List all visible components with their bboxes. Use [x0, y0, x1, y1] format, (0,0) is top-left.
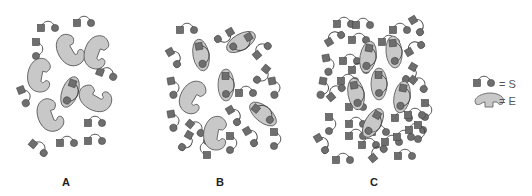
panel-c — [313, 14, 432, 164]
legend-substrate-label: = S — [499, 78, 516, 90]
legend-enzyme-label: = E — [499, 95, 516, 107]
panel-a — [16, 16, 118, 158]
panel-label-a: A — [62, 176, 70, 188]
legend-substrate-icon — [474, 76, 495, 86]
enzyme-substrate-diagram — [0, 0, 532, 196]
panel-label-b: B — [216, 176, 224, 188]
panel-label-c: C — [370, 176, 378, 188]
panel-b — [165, 23, 282, 158]
